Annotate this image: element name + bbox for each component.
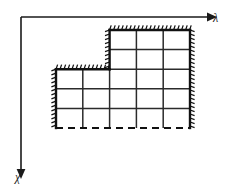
figure-root: λ χ (0, 0, 231, 188)
staircase-domain-figure: λ χ (0, 0, 231, 188)
chi-axis-label: χ (14, 170, 21, 184)
domain-interior (56, 30, 190, 128)
domain-group (51, 25, 194, 128)
lambda-axis-label: λ (212, 11, 218, 25)
